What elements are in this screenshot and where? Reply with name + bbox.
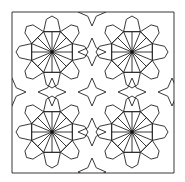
rosette-spoke	[118, 52, 132, 66]
rosette-petal	[72, 124, 88, 141]
rosette-spoke	[132, 132, 146, 146]
rosette-petal	[44, 152, 61, 168]
rosette-petal	[124, 152, 141, 168]
rosette-petal	[124, 96, 141, 112]
rosette-spoke	[52, 38, 66, 52]
four-point-star	[78, 118, 106, 146]
rosette-spoke	[52, 52, 66, 66]
rosette-petal	[44, 96, 61, 112]
rosette-spoke	[52, 132, 66, 146]
rosette-spoke	[118, 132, 132, 146]
frame-border	[12, 12, 174, 173]
rosette-petal	[96, 124, 112, 141]
four-point-star	[158, 78, 185, 106]
four-point-star	[78, 78, 106, 106]
four-point-star	[118, 78, 146, 106]
rosette-petal	[44, 16, 61, 32]
rosette-spoke	[52, 118, 66, 132]
rosette-petal	[152, 124, 168, 141]
rosette-center-dot	[51, 51, 54, 54]
rosette-petal	[16, 124, 32, 141]
four-point-star	[78, 0, 106, 26]
rosette-center-dot	[131, 131, 134, 134]
rosette-center-dot	[131, 51, 134, 54]
four-point-star	[0, 78, 26, 106]
rosette-spoke	[118, 118, 132, 132]
rosette-spoke	[132, 38, 146, 52]
pattern-lines	[0, 0, 185, 182]
rosette-spoke	[132, 118, 146, 132]
rosette-petal	[44, 72, 61, 88]
rosette-petal	[16, 44, 32, 61]
rosette-spoke	[38, 118, 52, 132]
rosette-spoke	[132, 52, 146, 66]
rosette-spoke	[38, 52, 52, 66]
rosette-petal	[124, 72, 141, 88]
rosette-petal	[96, 44, 112, 61]
rosette-petal	[152, 44, 168, 61]
four-point-star	[78, 158, 106, 182]
four-point-star	[78, 38, 106, 66]
rosette-spoke	[38, 132, 52, 146]
geometric-tiling-pattern	[0, 0, 185, 182]
rosette-center-dot	[51, 131, 54, 134]
rosette-petal	[72, 44, 88, 61]
rosette-spoke	[38, 38, 52, 52]
four-point-star	[38, 78, 66, 106]
rosette-spoke	[118, 38, 132, 52]
rosette-petal	[124, 16, 141, 32]
